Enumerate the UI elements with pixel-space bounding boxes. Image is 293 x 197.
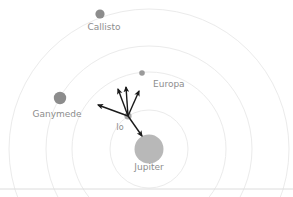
callisto-label: Callisto xyxy=(87,22,121,32)
diagram-canvas: Callisto Ganymede Europa Io Jupiter xyxy=(0,0,293,197)
force-vector-to-jupiter-arrow xyxy=(128,116,142,136)
orbital-diagram: Callisto Ganymede Europa Io Jupiter xyxy=(0,0,293,197)
force-vector-to-ganymede-arrow xyxy=(98,105,128,116)
io-label: Io xyxy=(116,123,123,132)
jupiter-body xyxy=(135,135,164,164)
callisto-body xyxy=(95,9,104,18)
jupiter-label: Jupiter xyxy=(133,162,164,172)
europa-body xyxy=(139,70,145,76)
ganymede-body xyxy=(54,92,66,104)
ganymede-label: Ganymede xyxy=(32,109,82,119)
europa-label: Europa xyxy=(153,79,185,89)
